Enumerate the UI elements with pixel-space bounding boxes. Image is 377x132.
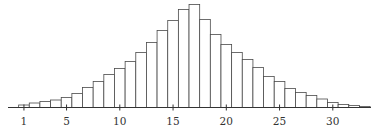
histogram-bar — [210, 35, 221, 108]
histogram-bar — [157, 31, 168, 108]
histogram-bar — [253, 68, 264, 108]
histogram-bar — [285, 89, 296, 108]
histogram-bar — [72, 94, 83, 108]
histogram-bar — [242, 60, 253, 108]
histogram-bar — [189, 5, 200, 108]
histogram-bar — [306, 96, 317, 108]
histogram-bar — [51, 100, 62, 108]
histogram-chart: 151015202530 — [0, 0, 377, 132]
histogram-bar — [29, 103, 40, 108]
histogram-bar — [296, 93, 307, 108]
histogram-bar — [146, 43, 157, 108]
x-tick-label: 25 — [273, 115, 286, 127]
x-tick-label: 15 — [166, 115, 179, 127]
x-tick-label: 30 — [326, 115, 339, 127]
histogram-bar — [114, 69, 125, 108]
histogram-bars — [19, 5, 370, 108]
histogram-bar — [232, 53, 243, 108]
histogram-bar — [93, 82, 104, 108]
x-tick-label: 20 — [220, 115, 233, 127]
x-tick-label: 1 — [21, 115, 28, 127]
histogram-bar — [264, 77, 275, 108]
histogram-bar — [104, 75, 115, 108]
histogram-bar — [178, 10, 189, 108]
histogram-bar — [136, 53, 147, 108]
x-tick-label: 5 — [63, 115, 70, 127]
histogram-bar — [40, 102, 51, 108]
x-tick-label: 10 — [113, 115, 126, 127]
histogram-bar — [274, 82, 285, 108]
histogram-bar — [221, 45, 232, 108]
histogram-bar — [83, 88, 94, 108]
histogram-bar — [168, 21, 179, 108]
histogram-bar — [317, 99, 328, 108]
histogram-bar — [200, 20, 211, 108]
histogram-bar — [125, 62, 136, 108]
